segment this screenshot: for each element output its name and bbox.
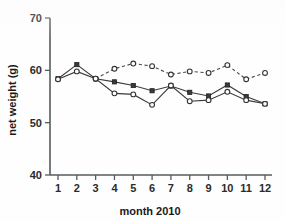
data-point-marker	[187, 69, 192, 74]
data-point-marker	[74, 69, 79, 74]
x-tick-label: 4	[111, 182, 118, 194]
x-tick-label: 9	[205, 182, 211, 194]
data-point-marker	[112, 91, 117, 96]
y-tick-label: 40	[30, 169, 42, 181]
data-point-marker	[263, 71, 268, 76]
data-point-marker	[225, 89, 230, 94]
data-point-marker	[150, 89, 154, 93]
data-point-marker	[131, 92, 136, 97]
x-axis-title: month 2010	[119, 205, 180, 217]
x-tick-label: 1	[55, 182, 61, 194]
data-point-marker	[225, 83, 229, 87]
data-point-marker	[169, 72, 174, 77]
x-tick-label: 11	[240, 182, 252, 194]
x-tick-label: 7	[168, 182, 174, 194]
data-point-marker	[206, 71, 211, 76]
y-tick-label: 70	[30, 12, 42, 24]
x-tick-label: 10	[221, 182, 233, 194]
data-point-marker	[225, 63, 230, 68]
data-point-marker	[263, 101, 268, 106]
data-point-marker	[131, 61, 136, 66]
data-point-marker	[75, 62, 79, 66]
data-point-marker	[206, 98, 211, 103]
data-point-marker	[188, 90, 192, 94]
data-point-marker	[93, 76, 98, 81]
y-tick-label: 60	[30, 64, 42, 76]
line-chart-svg: 40506070 123456789101112 month 2010 net …	[0, 0, 285, 221]
data-point-marker	[150, 64, 155, 69]
x-tick-label: 5	[130, 182, 136, 194]
data-point-marker	[187, 99, 192, 104]
data-point-marker	[131, 83, 135, 87]
data-point-marker	[112, 66, 117, 71]
chart-container: 40506070 123456789101112 month 2010 net …	[0, 0, 285, 221]
y-tick-label: 50	[30, 117, 42, 129]
y-axis-ticks: 40506070	[30, 12, 50, 181]
series-line-dashed-open-circle	[96, 64, 265, 80]
x-tick-label: 8	[187, 182, 193, 194]
y-axis-title: net weight (g)	[6, 64, 18, 136]
chart-series-layer	[56, 61, 268, 107]
x-tick-label: 6	[149, 182, 155, 194]
x-axis-ticks: 123456789101112	[55, 175, 271, 194]
data-point-marker	[150, 102, 155, 107]
x-tick-label: 2	[74, 182, 80, 194]
data-point-marker	[244, 98, 249, 103]
x-tick-label: 12	[259, 182, 271, 194]
x-tick-label: 3	[93, 182, 99, 194]
data-point-marker	[56, 77, 61, 82]
data-point-marker	[244, 77, 249, 82]
data-point-marker	[169, 83, 174, 88]
data-point-marker	[112, 80, 116, 84]
